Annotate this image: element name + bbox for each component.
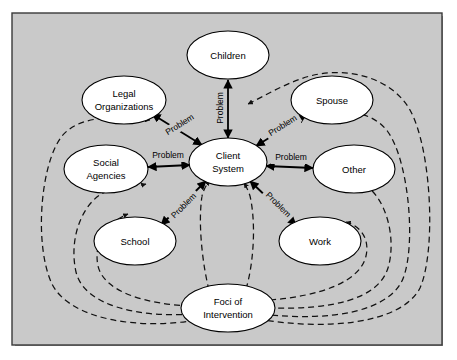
diagram-root: Problem Problem Problem Problem Problem … [0, 0, 457, 360]
node-social-agencies-label-line1: Social [93, 157, 119, 168]
node-school[interactable]: School [94, 217, 176, 265]
node-work-label: Work [309, 236, 331, 247]
node-work[interactable]: Work [279, 217, 361, 265]
node-legal-organizations-label-line2: Organizations [95, 101, 154, 112]
node-spouse-label: Spouse [316, 95, 348, 106]
node-other[interactable]: Other [313, 145, 395, 193]
node-foci-of-intervention[interactable]: Foci of Intervention [181, 284, 275, 332]
edge-label-text: Problem [215, 92, 225, 124]
node-foci-of-intervention-label-line1: Foci of [214, 296, 243, 307]
node-spouse[interactable]: Spouse [291, 76, 373, 124]
edge-label-text: Problem [275, 152, 307, 162]
node-legal-organizations[interactable]: Legal Organizations [82, 76, 166, 124]
node-client-system-label-line2: System [212, 163, 244, 174]
edge-label-client-other: Problem [271, 152, 311, 164]
node-school-label: School [120, 236, 149, 247]
node-client-system[interactable]: Client System [189, 138, 267, 186]
edge-label-client-children: Problem [215, 89, 227, 127]
edge-label-client-social: Problem [148, 150, 188, 162]
node-foci-of-intervention-label-line2: Intervention [203, 309, 253, 320]
node-children[interactable]: Children [187, 31, 269, 79]
ecomap-diagram: Problem Problem Problem Problem Problem … [0, 0, 457, 360]
node-social-agencies-label-line2: Agencies [86, 170, 125, 181]
node-children-label: Children [210, 50, 245, 61]
edge-label-text: Problem [152, 150, 184, 160]
node-other-label: Other [342, 164, 366, 175]
node-client-system-label-line1: Client [216, 150, 241, 161]
node-legal-organizations-label-line1: Legal [112, 88, 135, 99]
node-social-agencies[interactable]: Social Agencies [64, 145, 148, 193]
